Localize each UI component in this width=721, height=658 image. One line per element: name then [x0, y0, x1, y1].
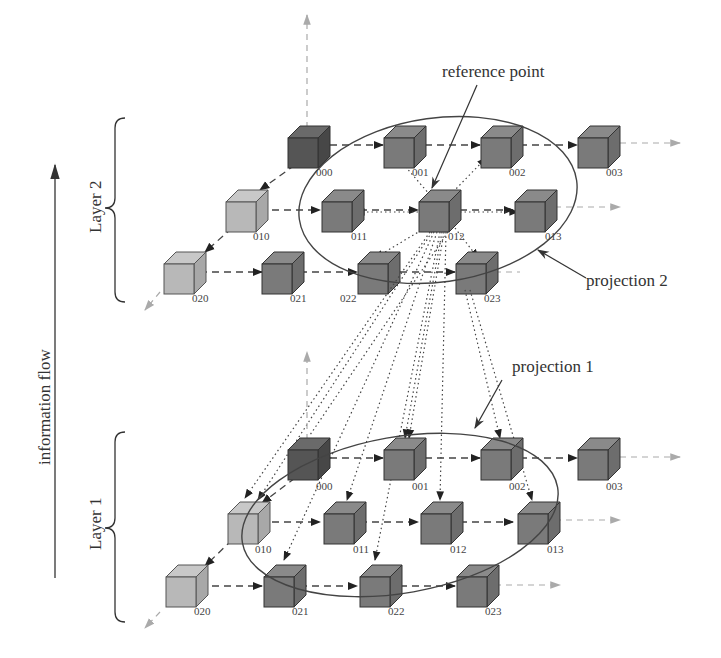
node-label: 010 — [255, 543, 272, 555]
information-flow-label: information flow — [35, 349, 54, 465]
node-label: 023 — [484, 292, 501, 304]
cube-l1-011 — [324, 502, 366, 544]
cube-l2-000 — [288, 126, 330, 168]
node-label: 003 — [606, 166, 623, 178]
node-label: 022 — [388, 605, 405, 617]
cube-l2-022 — [358, 252, 400, 294]
cube-l2-001 — [384, 126, 426, 168]
projection-2-callout: projection 2 — [538, 250, 668, 290]
cube-l1-020 — [166, 565, 208, 607]
layer-projection-diagram: information flow Layer 2 Layer 1 — [0, 0, 721, 658]
cube-l2-020 — [164, 252, 206, 294]
cube-l2-010 — [226, 190, 268, 232]
information-flow-indicator: information flow — [35, 165, 55, 578]
node-label: 012 — [448, 230, 465, 242]
cube-l1-022 — [360, 565, 402, 607]
reference-point-callout: reference point — [432, 62, 545, 188]
cube-l1-021 — [264, 565, 306, 607]
node-label: 001 — [412, 166, 429, 178]
node-label: 023 — [485, 605, 502, 617]
layer-2-brace: Layer 2 — [86, 118, 125, 302]
layer-1: 000 001 002 003 010 011 012 013 020 021 … — [145, 352, 680, 628]
cube-l1-023 — [457, 565, 499, 607]
node-label: 002 — [509, 480, 526, 492]
layer-2-label: Layer 2 — [86, 181, 105, 233]
node-label: 021 — [292, 605, 309, 617]
cube-l1-012 — [421, 502, 463, 544]
node-label: 022 — [340, 292, 357, 304]
node-label: 001 — [412, 480, 429, 492]
node-label: 013 — [547, 543, 564, 555]
cube-l1-003 — [578, 438, 620, 480]
cube-l1-000 — [288, 438, 330, 480]
cube-l1-001 — [384, 438, 426, 480]
node-label: 011 — [351, 230, 367, 242]
cube-l2-012 — [419, 190, 461, 232]
cube-l2-003 — [578, 126, 620, 168]
node-label: 002 — [509, 166, 526, 178]
layer-1-label: Layer 1 — [86, 498, 105, 550]
node-label: 020 — [194, 605, 211, 617]
cube-l1-010 — [228, 502, 270, 544]
node-label: 000 — [316, 480, 333, 492]
node-label: 010 — [253, 230, 270, 242]
node-label: 011 — [353, 543, 369, 555]
reference-point-label: reference point — [442, 62, 545, 81]
cube-l2-023 — [456, 252, 498, 294]
cube-l2-021 — [262, 252, 304, 294]
node-label: 020 — [192, 292, 209, 304]
projection-2-label: projection 2 — [586, 271, 668, 290]
cube-l1-013 — [518, 502, 560, 544]
projection-1-label: projection 1 — [512, 357, 594, 376]
layer-1-brace: Layer 1 — [86, 432, 125, 622]
node-label: 003 — [606, 480, 623, 492]
node-label: 021 — [290, 292, 307, 304]
cube-l2-013 — [515, 190, 557, 232]
cube-l2-002 — [481, 126, 523, 168]
cube-l1-002 — [481, 438, 523, 480]
projection-1-callout: projection 1 — [475, 357, 594, 428]
node-label: 012 — [450, 543, 467, 555]
cube-l2-011 — [322, 190, 364, 232]
layer-2: 000 001 002 003 010 011 012 013 020 021 … — [145, 15, 680, 310]
